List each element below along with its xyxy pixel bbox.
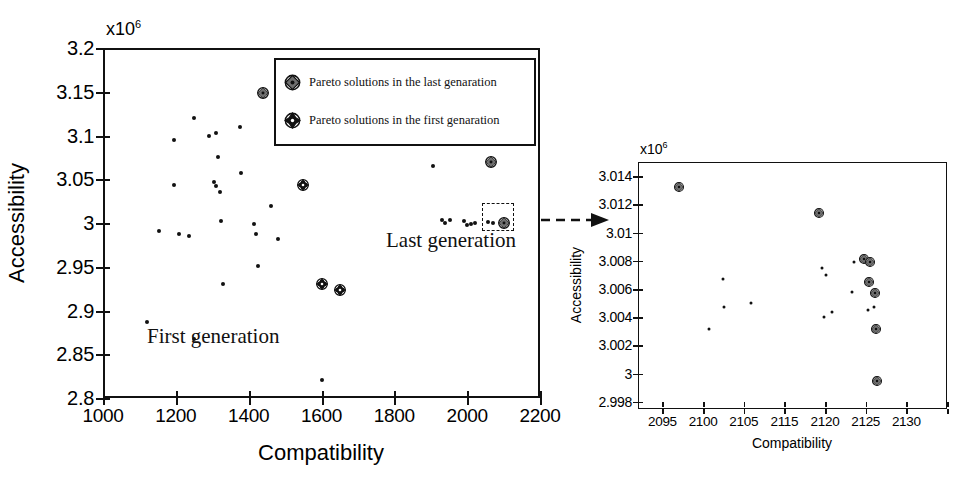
main-x-tick bbox=[394, 391, 396, 398]
main-x-tick bbox=[176, 391, 178, 398]
inset-y-exponent: x106 bbox=[640, 140, 668, 157]
inset-y-tick-label: 3.014 bbox=[598, 168, 632, 184]
main-y-tick bbox=[96, 223, 103, 225]
legend-item-last: Pareto solutions in the last genaration bbox=[284, 74, 497, 91]
figure-canvas: x106 Accessibility Compatibility 2.82.85… bbox=[0, 0, 977, 487]
inset-x-tick bbox=[906, 402, 908, 407]
data-point bbox=[750, 302, 753, 305]
inset-x-tick bbox=[784, 402, 786, 407]
main-y-tick-label: 3.05 bbox=[56, 168, 94, 191]
data-point bbox=[431, 164, 435, 168]
pareto-last-marker bbox=[870, 288, 881, 299]
pareto-last-marker bbox=[484, 155, 497, 168]
main-y-tick bbox=[103, 179, 110, 181]
data-point bbox=[853, 261, 856, 264]
pareto-first-marker bbox=[297, 179, 310, 192]
main-y-tick-label: 2.95 bbox=[56, 255, 94, 278]
data-point bbox=[473, 221, 477, 225]
inset-x-tick bbox=[825, 402, 827, 407]
inset-y-tick bbox=[638, 345, 643, 347]
pareto-last-marker bbox=[872, 375, 883, 386]
data-point bbox=[218, 190, 222, 194]
main-y-tick bbox=[103, 354, 110, 356]
data-point bbox=[723, 306, 726, 309]
inset-y-tick bbox=[638, 289, 643, 291]
data-point bbox=[187, 234, 191, 238]
main-y-tick bbox=[103, 311, 110, 313]
inset-y-tick bbox=[638, 233, 643, 235]
main-x-tick bbox=[249, 391, 251, 398]
main-y-tick bbox=[103, 267, 110, 269]
main-y-tick-label: 2.85 bbox=[56, 343, 94, 366]
pareto-last-marker bbox=[863, 276, 874, 287]
main-x-tick-label: 1200 bbox=[155, 405, 196, 427]
data-point bbox=[448, 218, 452, 222]
main-x-tick bbox=[540, 391, 542, 398]
data-point bbox=[238, 125, 242, 129]
main-y-tick-label: 3.2 bbox=[67, 37, 94, 60]
data-point bbox=[214, 131, 218, 135]
inset-x-tick-label: 2125 bbox=[851, 414, 880, 429]
main-x-tick-label: 1800 bbox=[374, 405, 415, 427]
inset-x-tick-label: 2120 bbox=[811, 414, 840, 429]
main-x-tick-label: 1600 bbox=[301, 405, 342, 427]
data-point bbox=[823, 316, 826, 319]
main-y-tick bbox=[96, 92, 103, 94]
main-y-tick bbox=[96, 179, 103, 181]
data-point bbox=[221, 282, 225, 286]
data-point bbox=[850, 290, 853, 293]
inset-plot-frame bbox=[638, 162, 947, 409]
inset-x-tick bbox=[703, 402, 705, 407]
data-point bbox=[192, 116, 196, 120]
inset-y-tick bbox=[638, 204, 643, 206]
main-x-tick bbox=[103, 391, 105, 398]
main-y-tick-label: 3.1 bbox=[67, 124, 94, 147]
main-y-tick-label: 3 bbox=[83, 212, 94, 235]
main-x-tick-label: 2200 bbox=[519, 405, 560, 427]
main-y-tick bbox=[103, 136, 110, 138]
data-point bbox=[252, 222, 256, 226]
inset-x-tick-label: 2100 bbox=[689, 414, 718, 429]
main-x-tick bbox=[467, 398, 469, 405]
data-point bbox=[172, 138, 176, 142]
pareto-last-marker bbox=[871, 323, 882, 334]
main-y-tick bbox=[96, 398, 103, 400]
main-scatter-plot: x106 Accessibility Compatibility 2.82.85… bbox=[103, 48, 540, 398]
pareto-first-marker-icon bbox=[284, 112, 301, 129]
pareto-first-marker bbox=[333, 284, 346, 297]
data-point bbox=[172, 183, 176, 187]
data-point bbox=[219, 219, 223, 223]
data-point bbox=[831, 310, 834, 313]
main-x-tick bbox=[467, 391, 469, 398]
inset-y-tick-label: 3.01 bbox=[606, 225, 632, 241]
data-point bbox=[867, 309, 870, 312]
main-x-axis-title: Compatibility bbox=[258, 440, 384, 466]
main-x-tick-label: 1000 bbox=[82, 405, 123, 427]
selection-box[interactable] bbox=[482, 203, 514, 231]
data-point bbox=[207, 134, 211, 138]
inset-y-tick-label: 3.002 bbox=[598, 337, 632, 353]
main-y-tick bbox=[96, 311, 103, 313]
main-y-tick bbox=[103, 92, 110, 94]
data-point bbox=[157, 229, 161, 233]
data-point bbox=[820, 266, 823, 269]
inset-x-tick-label: 2130 bbox=[892, 414, 921, 429]
inset-y-tick-label: 3.012 bbox=[598, 196, 632, 212]
pareto-last-marker bbox=[864, 256, 875, 267]
main-y-tick-label: 3.15 bbox=[56, 80, 94, 103]
main-x-tick-label: 1400 bbox=[228, 405, 269, 427]
main-x-tick bbox=[394, 398, 396, 405]
data-point bbox=[256, 264, 260, 268]
main-x-tick bbox=[176, 398, 178, 405]
inset-x-tick-label: 2095 bbox=[648, 414, 677, 429]
inset-y-tick-label: 2.998 bbox=[598, 394, 632, 410]
inset-y-tick bbox=[638, 374, 643, 376]
data-point bbox=[216, 155, 220, 159]
inset-x-tick bbox=[947, 402, 949, 407]
main-y-tick bbox=[96, 136, 103, 138]
inset-x-tick bbox=[947, 409, 949, 414]
main-y-tick bbox=[96, 48, 103, 50]
pareto-last-marker bbox=[257, 86, 270, 99]
callout-arrow-icon bbox=[541, 212, 613, 228]
main-y-tick-label: 2.9 bbox=[67, 299, 94, 322]
